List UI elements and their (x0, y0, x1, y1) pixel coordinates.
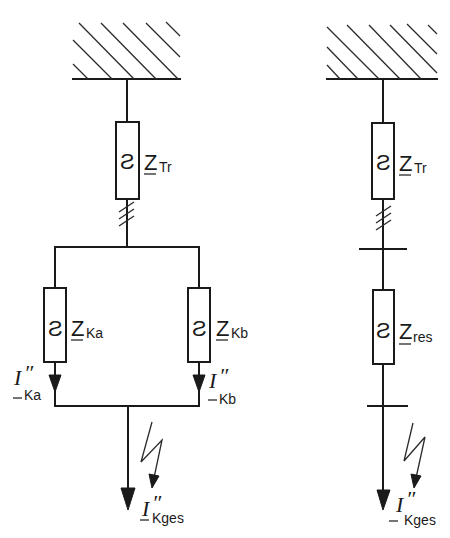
svg-text:″: ″ (219, 363, 229, 388)
label-z-tr-left: Z Tr (144, 150, 172, 175)
current-arrow-b (193, 375, 205, 392)
svg-text:Z: Z (216, 316, 229, 341)
svg-text:Z: Z (399, 319, 412, 344)
current-arrow-a (49, 375, 61, 392)
label-i-kges-left: I ″ Kges (140, 490, 184, 526)
svg-text:Z: Z (71, 316, 84, 341)
svg-text:″: ″ (406, 486, 416, 511)
total-current-arrow-right (377, 490, 390, 510)
svg-text:Z: Z (399, 151, 412, 176)
total-current-arrow-left (121, 488, 135, 510)
label-i-kges-right: I ″ Kges (389, 486, 436, 528)
svg-text:Ka: Ka (24, 387, 41, 403)
label-z-tr-right: Z Tr (399, 151, 427, 176)
impedance-glyph-icon: Ƨ (376, 150, 391, 175)
svg-text:Z: Z (144, 150, 157, 175)
label-z-res: Z res (399, 319, 432, 345)
svg-text:I: I (141, 496, 151, 521)
svg-text:″: ″ (24, 360, 34, 385)
network-source-hatch-right (327, 24, 437, 79)
label-i-kb: I ″ Kb (208, 363, 236, 407)
impedance-glyph-icon: Ƨ (192, 316, 207, 341)
fault-lightning-icon-right (404, 423, 425, 488)
svg-text:Tr: Tr (159, 159, 172, 175)
fault-lightning-icon-left (141, 422, 162, 488)
svg-text:Kb: Kb (231, 325, 248, 341)
label-i-ka: I ″ Ka (13, 360, 41, 403)
right-circuit: Ƨ Z Tr Ƨ Z res I ″ (327, 24, 437, 528)
label-z-kb: Z Kb (216, 316, 248, 341)
label-z-ka: Z Ka (71, 316, 103, 341)
impedance-glyph-icon: Ƨ (48, 316, 63, 341)
equivalent-circuit-diagram: Ƨ Z Tr Ƨ Z Ka I ″ Ka (0, 0, 450, 538)
impedance-glyph-icon: Ƨ (120, 149, 135, 174)
svg-text:Kb: Kb (219, 391, 236, 407)
impedance-glyph-icon: Ƨ (376, 318, 391, 343)
svg-text:Tr: Tr (414, 160, 427, 176)
network-source-hatch-left (73, 22, 180, 79)
svg-text:res: res (413, 329, 432, 345)
svg-text:Kges: Kges (152, 510, 184, 526)
svg-text:Ka: Ka (86, 325, 103, 341)
svg-text:Kges: Kges (404, 512, 436, 528)
svg-text:I: I (208, 368, 218, 393)
left-circuit: Ƨ Z Tr Ƨ Z Ka I ″ Ka (13, 22, 248, 526)
svg-text:I: I (13, 365, 23, 390)
